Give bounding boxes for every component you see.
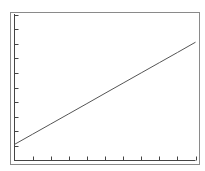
chart-frame — [11, 13, 200, 165]
axes — [14, 14, 197, 161]
x-axis-ticks — [34, 157, 197, 161]
line-chart — [0, 0, 205, 171]
series-line — [15, 42, 196, 144]
y-axis-ticks — [15, 16, 19, 147]
chart-canvas — [0, 0, 205, 171]
data-series — [15, 42, 196, 144]
